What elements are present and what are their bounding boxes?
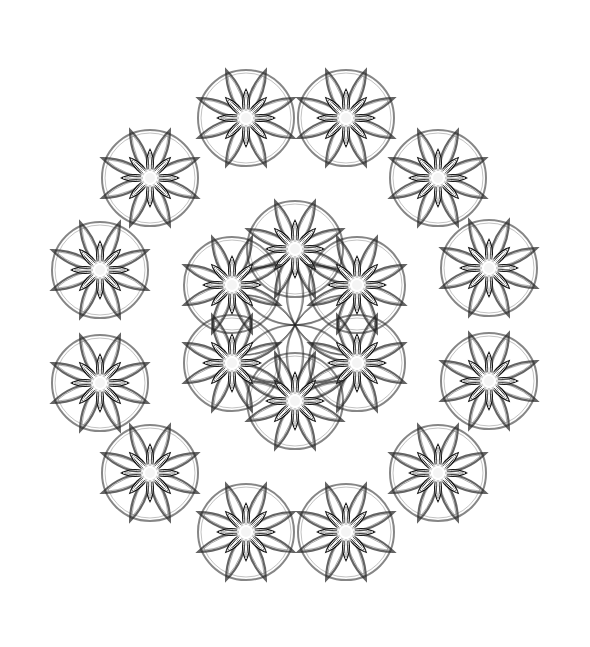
mandala-canvas [0,0,590,647]
